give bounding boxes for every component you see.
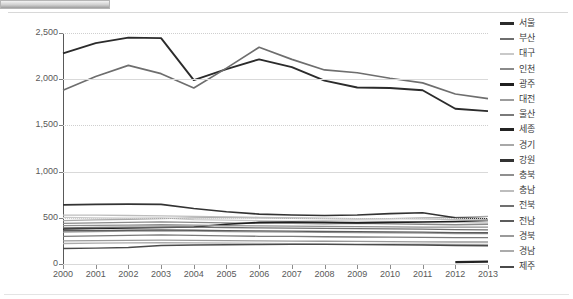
chart-screenshot: 05001,0001,5002,0002,500 200020012002200…: [0, 0, 573, 299]
legend-item[interactable]: 경기: [500, 138, 572, 153]
legend-item-label: 충북: [519, 171, 535, 180]
y-axis-tick-label: 2,000: [14, 73, 58, 83]
plot-area: [63, 33, 488, 264]
legend-item[interactable]: 세종: [500, 122, 572, 137]
legend-color-swatch-icon: [500, 250, 514, 252]
legend-item-label: 제주: [519, 262, 535, 271]
gridline: [63, 125, 488, 126]
legend-item[interactable]: 서울: [500, 16, 572, 31]
legend-item-label: 대구: [519, 49, 535, 58]
legend-color-swatch-icon: [500, 99, 514, 101]
legend-color-swatch-icon: [500, 159, 514, 162]
legend-color-swatch-icon: [500, 266, 514, 268]
x-axis-tick-label: 2001: [79, 269, 113, 279]
y-axis-tick: [59, 218, 63, 219]
bottom-divider: [4, 294, 569, 295]
x-axis-tick-label: 2009: [340, 269, 374, 279]
legend-color-swatch-icon: [500, 235, 514, 237]
top-divider: [8, 12, 568, 13]
gridline: [63, 264, 488, 265]
gridline: [63, 218, 488, 219]
legend-item[interactable]: 충북: [500, 168, 572, 183]
legend-item[interactable]: 대전: [500, 92, 572, 107]
legend-item[interactable]: 광주: [500, 77, 572, 92]
legend-item-label: 인천: [519, 65, 535, 74]
legend-item-label: 전북: [519, 201, 535, 210]
legend-item[interactable]: 강원: [500, 153, 572, 168]
legend-item-label: 부산: [519, 34, 535, 43]
legend-item[interactable]: 인천: [500, 62, 572, 77]
x-axis-tick-label: 2008: [308, 269, 342, 279]
series-lines: [63, 33, 488, 264]
x-axis-tick-label: 2006: [242, 269, 276, 279]
legend-item[interactable]: 울산: [500, 107, 572, 122]
y-axis-tick-label: 1,500: [14, 119, 58, 129]
x-axis-tick-label: 2012: [438, 269, 472, 279]
legend-item-label: 강원: [519, 156, 535, 165]
legend-item-label: 대전: [519, 95, 535, 104]
legend-item[interactable]: 경북: [500, 229, 572, 244]
line-chart: 05001,0001,5002,0002,500 200020012002200…: [0, 14, 495, 294]
y-axis-tick-label: 500: [14, 212, 58, 222]
x-axis-tick-label: 2002: [111, 269, 145, 279]
legend-item-label: 울산: [519, 110, 535, 119]
series-line: [63, 235, 488, 238]
y-axis-tick: [59, 125, 63, 126]
x-axis-labels: 2000200120022003200420052006200720082009…: [63, 269, 488, 285]
legend-item[interactable]: 경남: [500, 244, 572, 259]
legend-color-swatch-icon: [500, 22, 514, 25]
x-axis-tick-label: 2011: [406, 269, 440, 279]
series-line: [63, 240, 488, 242]
legend-item[interactable]: 부산: [500, 31, 572, 46]
x-axis-tick-label: 2000: [46, 269, 80, 279]
legend-item[interactable]: 전북: [500, 198, 572, 213]
legend-color-swatch-icon: [500, 190, 514, 192]
legend-item-label: 세종: [519, 125, 535, 134]
legend-item-label: 광주: [519, 80, 535, 89]
x-axis-tick-label: 2005: [209, 269, 243, 279]
y-axis-tick: [59, 79, 63, 80]
legend-item-label: 충남: [519, 186, 535, 195]
gridline: [63, 172, 488, 173]
legend-item-label: 서울: [519, 19, 535, 28]
legend-color-swatch-icon: [500, 144, 514, 146]
y-axis-tick-label: 2,500: [14, 27, 58, 37]
legend-item-label: 경남: [519, 247, 535, 256]
x-axis-tick-label: 2010: [373, 269, 407, 279]
legend-item[interactable]: 제주: [500, 259, 572, 274]
legend-item-label: 경북: [519, 232, 535, 241]
y-axis-tick-label: 0: [14, 258, 58, 268]
legend-color-swatch-icon: [500, 220, 514, 222]
y-axis-tick: [59, 33, 63, 34]
legend-item[interactable]: 대구: [500, 46, 572, 61]
legend-color-swatch-icon: [500, 83, 514, 86]
legend-color-swatch-icon: [500, 174, 514, 176]
legend-item-label: 경기: [519, 141, 535, 150]
series-line: [63, 244, 488, 248]
legend-color-swatch-icon: [500, 205, 514, 207]
y-axis-labels: 05001,0001,5002,0002,500: [10, 33, 58, 265]
x-axis-tick-label: 2003: [144, 269, 178, 279]
legend-color-swatch-icon: [500, 128, 514, 131]
gridline: [63, 79, 488, 80]
series-line: [63, 204, 488, 219]
legend-color-swatch-icon: [500, 38, 514, 41]
x-axis-tick-label: 2007: [275, 269, 309, 279]
legend-color-swatch-icon: [500, 114, 514, 116]
gridline: [63, 33, 488, 34]
legend-item[interactable]: 전남: [500, 213, 572, 228]
window-tab-strip[interactable]: [0, 0, 110, 9]
y-axis-tick-label: 1,000: [14, 166, 58, 176]
x-axis-tick-label: 2004: [177, 269, 211, 279]
y-axis-tick: [59, 172, 63, 173]
series-line: [63, 38, 488, 111]
legend-color-swatch-icon: [500, 68, 514, 70]
chart-legend: 서울부산대구인천광주대전울산세종경기강원충북충남전북전남경북경남제주: [500, 16, 572, 274]
legend-color-swatch-icon: [500, 53, 514, 55]
legend-item-label: 전남: [519, 217, 535, 226]
legend-item[interactable]: 충남: [500, 183, 572, 198]
